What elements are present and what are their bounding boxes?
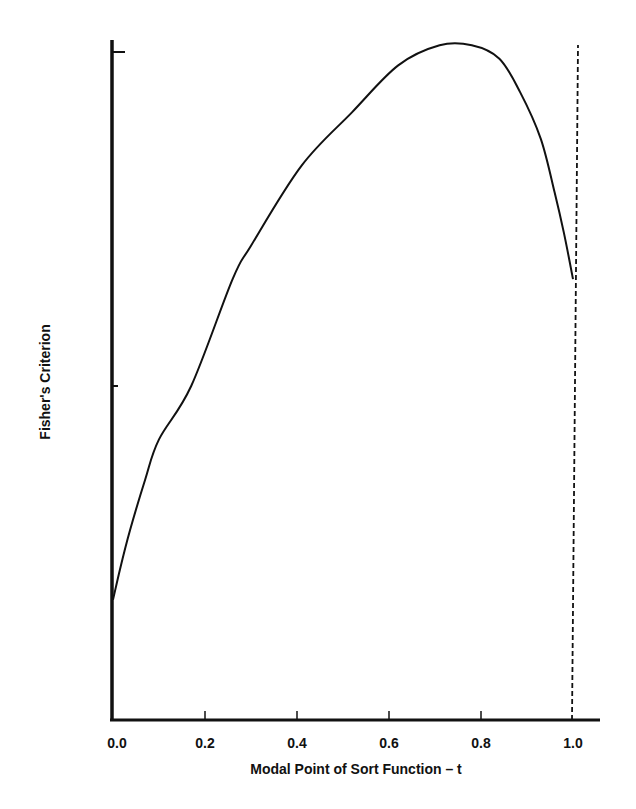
x-tick-label: 0.0 [107,735,127,751]
x-tick-label: 0.6 [379,735,399,751]
y-ticks [112,52,125,386]
x-ticks: 0.00.20.40.60.81.0 [107,711,583,751]
chart: 0.00.20.40.60.81.0 Modal Point of Sort F… [0,0,636,809]
x-tick-label: 0.4 [287,735,307,751]
y-axis-title: Fisher's Criterion [37,324,53,439]
x-axis-title: Modal Point of Sort Function – t [250,761,462,777]
reference-dashed-line [572,45,578,720]
x-tick-label: 0.8 [471,735,491,751]
x-tick-label: 1.0 [563,735,583,751]
fisher-criterion-curve [113,43,573,600]
x-tick-label: 0.2 [195,735,215,751]
plot-area: 0.00.20.40.60.81.0 [107,40,600,751]
